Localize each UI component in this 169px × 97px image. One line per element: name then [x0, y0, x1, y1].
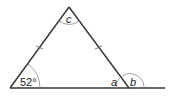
label-b: b — [130, 76, 136, 88]
triangle-diagram: 52° c a b — [0, 0, 169, 97]
label-c: c — [66, 13, 72, 25]
label-a: a — [111, 76, 117, 88]
label-52-degrees: 52° — [20, 76, 37, 88]
